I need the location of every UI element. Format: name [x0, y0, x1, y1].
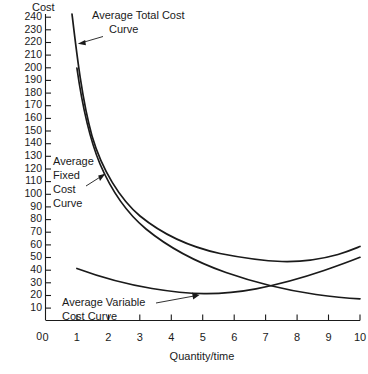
- average-variable-cost-curve: [77, 257, 360, 293]
- x-tick-label: 1: [74, 331, 80, 343]
- afc-annotation: Average Fixed Cost Curve: [53, 155, 105, 209]
- x-tick-label: 10: [354, 331, 366, 343]
- y-axis-title: Cost: [32, 1, 55, 13]
- atc-leader-line: [83, 37, 104, 43]
- y-tick-label: 230: [24, 23, 42, 35]
- x-tick-label: 5: [200, 331, 206, 343]
- y-tick-label: 70: [30, 225, 42, 237]
- atc-annotation: Average Total Cost Curve: [78, 9, 185, 45]
- avc-annotation-line1: Average Variable: [62, 296, 145, 308]
- y-tick-label: 10: [30, 301, 42, 313]
- y-tick-label: 40: [30, 263, 42, 275]
- y-tick-label: 140: [24, 136, 42, 148]
- y-tick-label: 60: [30, 238, 42, 250]
- avc-annotation: Average Variable Cost Curve: [62, 293, 200, 322]
- y-tick-label: 0: [36, 330, 42, 342]
- y-tick-label: 170: [24, 98, 42, 110]
- cost-curves-figure: 240 230 220 210 200 190 180 170 160 150 …: [0, 0, 368, 374]
- x-axis-title: Quantity/time: [170, 350, 235, 362]
- x-tick-label: 8: [294, 331, 300, 343]
- average-fixed-cost-curve: [77, 68, 360, 299]
- y-tick-label: 90: [30, 200, 42, 212]
- afc-annotation-line2: Fixed: [53, 169, 80, 181]
- y-tick-label: 50: [30, 250, 42, 262]
- x-tick-label: 3: [137, 331, 143, 343]
- atc-annotation-line2: Curve: [109, 23, 138, 35]
- y-tick-label: 160: [24, 111, 42, 123]
- y-tick-label: 110: [25, 174, 42, 186]
- y-tick-label: 80: [30, 212, 42, 224]
- y-tick-label: 150: [24, 124, 42, 136]
- y-tick-label: 210: [24, 48, 42, 60]
- y-tick-label: 120: [24, 162, 42, 174]
- y-axis-tick-labels: 240 230 220 210 200 190 180 170 160 150 …: [24, 10, 42, 342]
- y-tick-label: 220: [24, 35, 42, 47]
- atc-annotation-line1: Average Total Cost: [92, 9, 185, 21]
- y-tick-label: 20: [30, 288, 42, 300]
- y-tick-label: 130: [24, 149, 42, 161]
- x-tick-label: 4: [168, 331, 174, 343]
- x-tick-label: 7: [263, 331, 269, 343]
- x-tick-label: 6: [231, 331, 237, 343]
- y-tick-label: 30: [30, 276, 42, 288]
- x-tick-label: 9: [325, 331, 331, 343]
- atc-leader-arrowhead: [78, 40, 86, 45]
- average-total-cost-curve: [72, 14, 360, 262]
- avc-leader-line: [156, 296, 194, 303]
- x-tick-label: 2: [105, 331, 111, 343]
- y-tick-label: 180: [24, 86, 42, 98]
- afc-annotation-line4: Curve: [53, 197, 82, 209]
- chart-svg: 240 230 220 210 200 190 180 170 160 150 …: [0, 0, 368, 374]
- x-axis-tick-labels: 0 1 2 3 4 5 6 7 8 9 10: [42, 331, 366, 343]
- afc-annotation-line1: Average: [53, 155, 94, 167]
- afc-annotation-line3: Cost: [53, 183, 76, 195]
- y-tick-label: 200: [24, 61, 42, 73]
- y-tick-label: 100: [24, 187, 42, 199]
- x-tick-label: 0: [42, 331, 48, 343]
- x-axis-ticks: [77, 315, 360, 321]
- avc-annotation-line2: Cost Curve: [62, 310, 117, 322]
- afc-leader-line: [86, 177, 101, 187]
- y-axis-ticks: [46, 17, 52, 308]
- y-tick-label: 190: [24, 73, 42, 85]
